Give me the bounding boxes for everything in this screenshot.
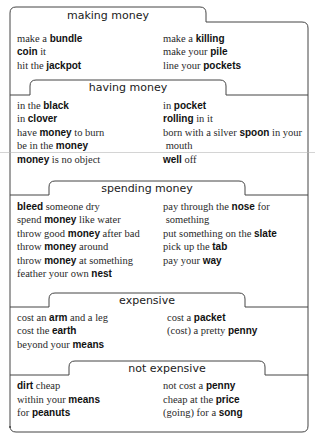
- keyword: slate: [254, 228, 277, 239]
- heading-expensive: expensive: [119, 295, 175, 307]
- keyword: pile: [210, 46, 227, 57]
- phrase-text: hit the: [17, 60, 46, 71]
- phrase-right: (cost) a pretty penny: [167, 325, 257, 337]
- phrase-right: mouth: [163, 140, 192, 152]
- keyword: rolling: [163, 113, 194, 124]
- phrase-right: put something on the slate: [163, 228, 277, 240]
- phrase-text: in: [163, 100, 174, 111]
- keyword: penny: [228, 325, 257, 336]
- phrase-right: born with a silver spoon in your: [163, 127, 302, 139]
- keyword: bundle: [50, 33, 83, 44]
- keyword: means: [68, 394, 100, 405]
- phrase-left: in clover: [17, 113, 57, 125]
- phrase-left: have money to burn: [17, 127, 104, 139]
- phrase-text: throw: [17, 241, 44, 252]
- keyword: money: [39, 127, 71, 138]
- phrase-text: around: [76, 241, 108, 252]
- phrase-left: cost the earth: [17, 325, 76, 337]
- phrase-text: for: [255, 201, 270, 212]
- phrase-text: pay your: [163, 255, 203, 266]
- phrase-left: hit the jackpot: [17, 60, 81, 72]
- phrase-text: be in the: [17, 140, 56, 151]
- keyword: money: [56, 140, 88, 151]
- phrase-text: make a: [163, 33, 196, 44]
- phrase-text: is no object: [49, 154, 100, 165]
- phrase-left: make a bundle: [17, 33, 82, 45]
- scan-line-artifact: [0, 152, 315, 153]
- keyword: song: [219, 407, 243, 418]
- phrase-text: throw: [17, 255, 44, 266]
- phrase-text: cost an: [17, 312, 49, 323]
- phrase-text: it: [38, 46, 46, 57]
- phrase-text: feather your own: [17, 268, 91, 279]
- phrase-right: well off: [163, 154, 197, 166]
- phrase-right: (going) for a song: [163, 407, 243, 419]
- phrase-text: spend: [17, 214, 44, 225]
- keyword: money: [44, 255, 76, 266]
- keyword: packet: [194, 312, 226, 323]
- keyword: arm: [49, 312, 67, 323]
- heading-having-money: having money: [89, 82, 167, 94]
- phrase-text: cheap: [33, 380, 60, 391]
- keyword: money: [17, 154, 49, 165]
- phrase-right: line your pockets: [163, 60, 241, 72]
- phrase-right: cheap at the price: [163, 394, 240, 406]
- phrase-right: pay your way: [163, 255, 222, 267]
- phrase-text: mouth: [163, 140, 192, 151]
- keyword: nose: [232, 201, 255, 212]
- phrase-text: beyond your: [17, 339, 72, 350]
- phrase-text: cost a: [167, 312, 194, 323]
- keyword: pockets: [203, 60, 241, 71]
- phrase-text: in the: [17, 100, 43, 111]
- keyword: nest: [91, 268, 112, 279]
- keyword: dirt: [17, 380, 33, 391]
- phrase-left: feather your own nest: [17, 268, 112, 280]
- phrase-left: within your means: [17, 394, 100, 406]
- phrase-right: pay through the nose for: [163, 201, 270, 213]
- phrase-text: within your: [17, 394, 68, 405]
- heading-spending-money: spending money: [101, 183, 193, 195]
- keyword: spoon: [239, 127, 269, 138]
- phrase-left: beyond your means: [17, 339, 104, 351]
- keyword: bleed: [17, 201, 43, 212]
- keyword: price: [216, 394, 240, 405]
- heading-not-expensive: not expensive: [128, 363, 205, 375]
- phrase-left: money is no object: [17, 154, 100, 166]
- phrase-text: cost the: [17, 325, 52, 336]
- phrase-text: not cost a: [163, 380, 206, 391]
- phrase-text: pick up the: [163, 241, 212, 252]
- phrase-left: throw money at something: [17, 255, 133, 267]
- phrase-right: make your pile: [163, 46, 227, 58]
- phrase-left: throw good money after bad: [17, 228, 140, 240]
- keyword: means: [72, 339, 104, 350]
- phrase-left: coin it: [17, 46, 46, 58]
- phrase-left: for peanuts: [17, 407, 70, 419]
- phrase-right: in pocket: [163, 100, 206, 112]
- phrase-text: throw good: [17, 228, 68, 239]
- phrase-text: cheap at the: [163, 394, 216, 405]
- phrase-text: put something on the: [163, 228, 254, 239]
- phrase-right: pick up the tab: [163, 241, 227, 253]
- phrase-text: make your: [163, 46, 210, 57]
- phrase-text: someone dry: [43, 201, 100, 212]
- phrase-text: at something: [76, 255, 133, 266]
- phrase-text: off: [182, 154, 197, 165]
- keyword: coin: [17, 46, 38, 57]
- phrase-right: cost a packet: [167, 312, 226, 324]
- phrase-text: make a: [17, 33, 50, 44]
- phrase-text: pay through the: [163, 201, 232, 212]
- keyword: tab: [212, 241, 227, 252]
- phrase-left: cost an arm and a leg: [17, 312, 108, 324]
- phrase-left: bleed someone dry: [17, 201, 100, 213]
- phrase-text: (cost) a pretty: [167, 325, 228, 336]
- keyword: money: [68, 228, 100, 239]
- phrase-text: in: [17, 113, 28, 124]
- phrase-right: not cost a penny: [163, 380, 235, 392]
- phrase-text: for: [17, 407, 32, 418]
- keyword: way: [203, 255, 222, 266]
- phrase-text: after bad: [100, 228, 140, 239]
- keyword: killing: [196, 33, 225, 44]
- phrase-text: line your: [163, 60, 203, 71]
- phrase-left: throw money around: [17, 241, 108, 253]
- phrase-text: and a leg: [67, 312, 108, 323]
